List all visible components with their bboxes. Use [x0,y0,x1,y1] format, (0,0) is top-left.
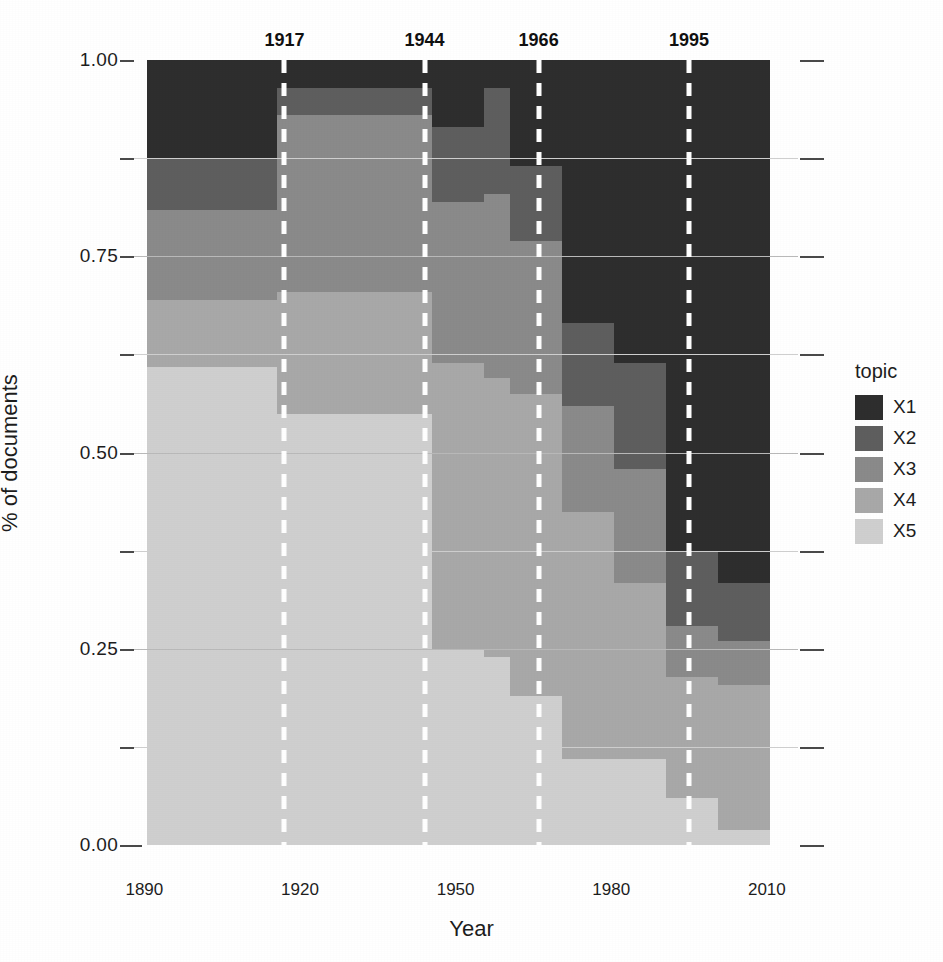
bar-segment-x3 [225,209,252,300]
legend-swatch-x4 [855,488,883,513]
bar-segment-x4 [458,362,485,649]
legend-label: X4 [893,489,916,511]
y-tick-mark [800,256,824,258]
bar-segment-x3 [303,115,330,292]
bar-segment-x3 [718,641,745,685]
bar-segment-x3 [458,201,485,362]
event-line-1917 [282,60,287,845]
bar-segment-x4 [406,292,433,414]
legend-swatch-x1 [855,395,883,420]
y-tick-label: 0.00 [80,834,118,856]
bar-segment-x2 [744,582,771,641]
bar-segment-x5 [718,829,745,845]
x-tick-label: 1890 [125,880,163,900]
gridline-major [134,649,798,650]
event-label-1917: 1917 [264,30,304,51]
legend: topic X1X2X3X4X5 [855,360,916,548]
bar-segment-x2 [173,158,200,210]
legend-item-x3[interactable]: X3 [855,455,916,483]
bar-segment-x4 [225,299,252,366]
bar-segment-x5 [614,759,641,845]
gridline-minor [134,747,798,748]
bar-segment-x3 [173,209,200,300]
bar-segment-x5 [354,413,381,845]
bar-segment-x5 [692,798,719,845]
bar-segment-x1 [303,60,330,88]
bar-segment-x1 [354,60,381,88]
bar-segment-x2 [406,87,433,115]
bar-segment-x5 [277,413,304,845]
chart-figure: 1917194419661995 0.000.250.500.751.00 % … [0,0,943,962]
legend-swatch-x5 [855,519,883,544]
bar-segment-x5 [562,759,589,845]
bar-segment-x4 [640,582,667,759]
bar-segment-x4 [329,292,356,414]
bar-segment-x1 [510,60,537,166]
legend-label: X2 [893,427,916,449]
bar-segment-x2 [354,87,381,115]
gridline-major [134,453,798,454]
bar-segment-x5 [225,366,252,845]
y-tick-mark [800,747,824,749]
bar-segment-x3 [744,641,771,685]
bar-segment-x4 [303,292,330,414]
bar-segment-x5 [173,366,200,845]
bar-segment-x1 [692,60,719,551]
bar-segment-x2 [432,127,459,202]
bar-segment-x4 [251,299,278,366]
y-tick-label: 0.25 [80,638,118,660]
bar-segment-x4 [147,299,174,366]
bar-segment-x1 [406,60,433,88]
legend-item-x5[interactable]: X5 [855,517,916,545]
y-tick-mark [800,158,824,160]
bar-segment-x3 [588,405,615,511]
bar-segment-x5 [199,366,226,845]
legend-item-x1[interactable]: X1 [855,393,916,421]
bar-segment-x3 [380,115,407,292]
bar-segment-x2 [225,158,252,210]
y-tick-mark [800,453,824,455]
legend-item-x4[interactable]: X4 [855,486,916,514]
bar-segment-x4 [354,292,381,414]
bar-segment-x1 [199,60,226,159]
bar-segment-x1 [744,60,771,583]
bar-segment-x5 [251,366,278,845]
gridline-minor [134,354,798,355]
bar-segment-x4 [744,684,771,830]
bar-segment-x3 [147,209,174,300]
gridline-minor [134,551,798,552]
bar-segment-x4 [380,292,407,414]
bar-segment-x2 [329,87,356,115]
bar-segment-x4 [432,362,459,649]
bar-segment-x5 [510,696,537,845]
bar-segment-x4 [562,511,589,759]
bar-segment-x2 [484,87,511,193]
bar-segment-x1 [588,60,615,323]
bar-segment-x4 [614,582,641,759]
bar-segment-x2 [303,87,330,115]
bar-segment-x1 [562,60,589,323]
x-tick-label: 2010 [748,880,786,900]
bar-segment-x3 [354,115,381,292]
bar-segment-x2 [692,551,719,626]
bar-segment-x2 [251,158,278,210]
bar-segment-x4 [199,299,226,366]
legend-label: X3 [893,458,916,480]
legend-item-x2[interactable]: X2 [855,424,916,452]
x-tick-label: 1920 [281,880,319,900]
bar-segment-x1 [329,60,356,88]
legend-label: X5 [893,520,916,542]
bar-segment-x5 [588,759,615,845]
bar-segment-x1 [173,60,200,159]
bar-segment-x2 [458,127,485,202]
event-line-1995 [687,60,692,845]
y-tick-mark [800,60,824,62]
bar-segment-x2 [199,158,226,210]
bar-segment-x2 [277,87,304,115]
bar-segment-x3 [562,405,589,511]
bar-segment-x3 [406,115,433,292]
bar-segment-x2 [510,166,537,241]
bar-segment-x3 [432,201,459,362]
bar-segment-x1 [484,60,511,88]
plot-area [134,60,798,845]
